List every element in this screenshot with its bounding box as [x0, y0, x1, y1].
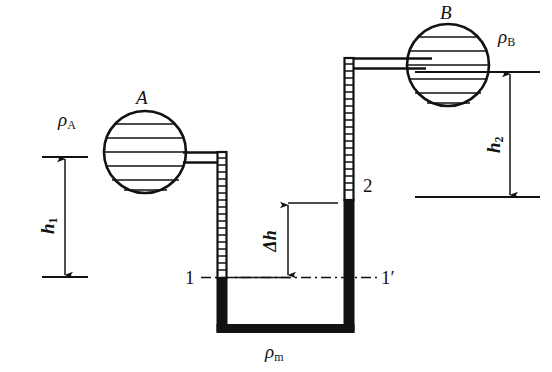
dimension-delta-h — [231, 203, 338, 278]
figure-canvas — [0, 0, 552, 372]
rho-m-subscript: m — [274, 350, 284, 364]
left-limb-manometric-fluid — [217, 277, 228, 332]
left-limb-hatched — [218, 152, 227, 278]
h2-symbol: h — [483, 142, 504, 153]
rho-m-label: ρm — [265, 342, 284, 363]
level-2-label: 2 — [363, 176, 373, 195]
h1-symbol: h — [37, 223, 58, 234]
right-limb-hatched — [345, 58, 354, 200]
delta-h-label: Δh — [261, 230, 279, 251]
rho-a-subscript: A — [67, 118, 76, 132]
vessel-a-label: A — [136, 88, 148, 107]
h2-label: h2 — [484, 136, 505, 153]
level-1-prime-label: 1′ — [381, 268, 395, 287]
rho-b-label: ρB — [498, 27, 515, 48]
h1-label: h1 — [38, 217, 59, 234]
rho-a-symbol: ρ — [58, 109, 67, 130]
right-limb-manometric-fluid — [344, 199, 355, 332]
h1-subscript: 1 — [46, 217, 60, 223]
h2-subscript: 2 — [492, 136, 506, 142]
vessel-b — [407, 24, 489, 106]
level-1-label: 1 — [185, 268, 195, 287]
vessel-b-label: B — [440, 3, 452, 22]
rho-b-symbol: ρ — [498, 26, 507, 47]
manometer-figure: A B ρA ρB ρm h1 h2 Δh 1 1′ 2 — [0, 0, 552, 372]
rho-b-subscript: B — [507, 35, 515, 49]
vessel-a — [104, 111, 186, 193]
rho-m-symbol: ρ — [265, 341, 274, 362]
rho-a-label: ρA — [58, 110, 76, 131]
u-tube-bottom-manometric-fluid — [217, 324, 355, 333]
